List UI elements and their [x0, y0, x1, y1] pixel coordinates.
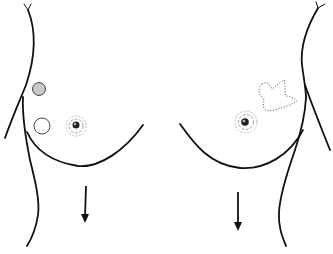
- dotted-irregular-region: [259, 80, 297, 111]
- diagram-svg: [0, 0, 333, 254]
- breast-diagram: Breast illustration with lesion markers: [0, 0, 333, 254]
- right-nipple-icon: [235, 111, 257, 133]
- right-torso-outline: [279, 2, 330, 246]
- left-torso-outline: [5, 4, 38, 246]
- open-circle-marker: [34, 118, 50, 134]
- filled-circle-marker: [33, 83, 46, 96]
- left-nipple-icon: [66, 116, 86, 136]
- right-breast-curve: [180, 124, 303, 168]
- right-down-arrow-icon: [234, 192, 242, 231]
- left-down-arrow-icon: [81, 186, 89, 223]
